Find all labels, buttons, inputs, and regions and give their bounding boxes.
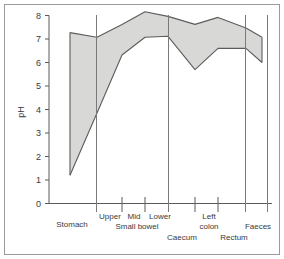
chart-figure: 0 1 2 3 4 5 6 7 8 pH bbox=[0, 0, 284, 259]
y-tick-label-3: 3 bbox=[36, 128, 41, 138]
y-tick-label-1: 1 bbox=[36, 175, 41, 185]
y-tick-label-7: 7 bbox=[36, 34, 41, 44]
y-tick-label-4: 4 bbox=[36, 105, 41, 115]
x-label-small-bowel: Small bowel bbox=[115, 222, 158, 231]
y-tick-label-0: 0 bbox=[36, 199, 41, 209]
x-label-faeces: Faeces bbox=[245, 222, 271, 231]
x-label-rectum: Rectum bbox=[220, 233, 248, 242]
x-label-upper: Upper bbox=[99, 212, 121, 221]
y-tick-marks bbox=[45, 16, 49, 204]
x-label-colon: colon bbox=[199, 222, 218, 231]
y-tick-label-6: 6 bbox=[36, 58, 41, 68]
x-label-mid: Mid bbox=[128, 212, 141, 221]
x-tick-marks bbox=[122, 197, 218, 212]
ph-range-chart: 0 1 2 3 4 5 6 7 8 pH bbox=[0, 0, 284, 259]
y-tick-label-8: 8 bbox=[36, 11, 41, 21]
y-tick-label-2: 2 bbox=[36, 152, 41, 162]
x-label-stomach: Stomach bbox=[56, 220, 88, 229]
x-label-left: Left bbox=[202, 212, 216, 221]
y-tick-label-5: 5 bbox=[36, 81, 41, 91]
x-label-caecum: Caecum bbox=[167, 233, 197, 242]
x-label-lower: Lower bbox=[149, 212, 171, 221]
y-axis-title: pH bbox=[16, 106, 26, 118]
